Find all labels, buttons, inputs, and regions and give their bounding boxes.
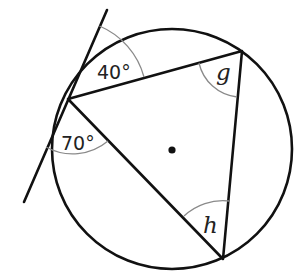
angle-label-h: h: [203, 212, 218, 238]
angle-label-40: 40°: [97, 61, 131, 83]
tangent-line: [24, 10, 107, 202]
angle-label-g: g: [216, 59, 231, 85]
circle-center-dot: [168, 146, 175, 153]
geometry-diagram: 40° 70° g h: [0, 0, 297, 277]
angle-label-70: 70°: [61, 132, 95, 154]
